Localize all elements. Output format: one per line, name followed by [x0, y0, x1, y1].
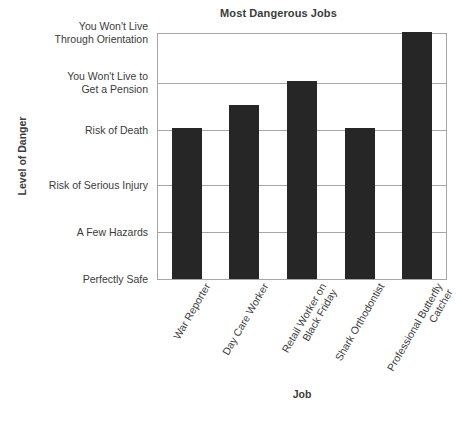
- x-tick-label-1: Day Care Worker: [200, 281, 270, 391]
- bar-slot-3: [331, 34, 389, 279]
- y-tick-label-0: Perfectly Safe: [6, 273, 148, 286]
- bar-slot-4: [388, 34, 446, 279]
- x-axis-title: Job: [157, 388, 447, 400]
- bar-slot-2: [273, 34, 331, 279]
- chart-title-text: Most Dangerous Jobs: [220, 7, 337, 19]
- y-tick-label-2: Risk of Serious Injury: [6, 179, 148, 192]
- bar-retail-worker-black-friday[interactable]: [287, 81, 317, 279]
- bar-war-reporter[interactable]: [172, 128, 202, 279]
- y-tick-label-4: You Won't Live to Get a Pension: [6, 70, 148, 96]
- bar-slot-0: [158, 34, 216, 279]
- y-tick-label-3: Risk of Death: [6, 124, 148, 137]
- bar-series: [158, 34, 446, 279]
- y-tick-label-1: A Few Hazards: [6, 226, 148, 239]
- x-axis-tick-labels: War Reporter Day Care Worker Retail Work…: [157, 281, 447, 391]
- x-tick-label-4: Professional Butterfly Catcher: [374, 281, 455, 397]
- bar-professional-butterfly-catcher[interactable]: [402, 32, 432, 279]
- y-tick-label-5: You Won't Live Through Orientation: [6, 20, 148, 46]
- bar-shark-orthodontist[interactable]: [345, 128, 375, 279]
- bar-day-care-worker[interactable]: [229, 105, 259, 279]
- plot-area: [157, 33, 447, 280]
- y-axis-tick-labels: You Won't Live Through Orientation You W…: [0, 0, 157, 421]
- bar-chart: Most Dangerous Jobs Level of Danger You …: [0, 0, 471, 421]
- bar-slot-1: [216, 34, 274, 279]
